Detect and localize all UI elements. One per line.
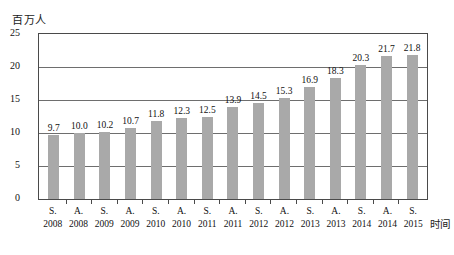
y-axis-tick-label: 20 xyxy=(0,61,20,71)
x-axis-season-label: S. xyxy=(297,205,323,218)
bar-value-label: 18.3 xyxy=(327,66,344,77)
bar: 18.3 xyxy=(330,78,341,199)
bar: 9.7 xyxy=(48,135,59,199)
x-axis-year-label: 2009 xyxy=(117,218,143,231)
y-axis-tick-label: 25 xyxy=(0,28,20,38)
x-axis-tick-mark xyxy=(322,200,323,204)
x-axis-season-label: A. xyxy=(66,205,92,218)
x-axis-category-label: S.2008 xyxy=(40,205,66,231)
x-axis-tick-mark xyxy=(398,200,399,204)
bar: 10.2 xyxy=(99,132,110,199)
x-axis-season-label: S. xyxy=(91,205,117,218)
bar: 12.5 xyxy=(202,117,213,200)
x-axis-title: 时间 xyxy=(430,219,450,231)
x-axis-tick-mark xyxy=(245,200,246,204)
bar-slot: 12.5 xyxy=(195,34,221,199)
bar: 21.7 xyxy=(381,56,392,199)
bar-value-label: 12.5 xyxy=(199,105,216,116)
bar-value-label: 13.9 xyxy=(225,95,242,106)
bar-slot: 10.7 xyxy=(118,34,144,199)
x-axis-category-label: A.2011 xyxy=(220,205,246,231)
bars-container: 9.710.010.210.711.812.312.513.914.515.31… xyxy=(39,34,427,199)
plot-area: 9.710.010.210.711.812.312.513.914.515.31… xyxy=(38,33,428,200)
bar-slot: 15.3 xyxy=(271,34,297,199)
x-axis-category-label: S.2013 xyxy=(297,205,323,231)
x-axis-season-label: S. xyxy=(143,205,169,218)
bar: 11.8 xyxy=(151,121,162,199)
x-axis-tick-mark xyxy=(373,200,374,204)
bar: 10.0 xyxy=(74,133,85,199)
x-axis-season-label: S. xyxy=(40,205,66,218)
x-axis-category-label: S.2014 xyxy=(349,205,375,231)
x-axis-category-label: A.2009 xyxy=(117,205,143,231)
bar: 14.5 xyxy=(253,103,264,199)
bar-value-label: 10.2 xyxy=(97,120,114,131)
bar-value-label: 11.8 xyxy=(148,109,164,120)
bar-slot: 14.5 xyxy=(246,34,272,199)
x-axis-season-label: S. xyxy=(194,205,220,218)
y-axis-tick-label: 15 xyxy=(0,94,20,104)
x-axis-category-label: S.2010 xyxy=(143,205,169,231)
x-axis-season-label: S. xyxy=(246,205,272,218)
bar: 20.3 xyxy=(355,65,366,199)
y-axis-tick-label: 0 xyxy=(0,193,20,203)
x-axis-tick-labels: S.2008A.2008S.2009A.2009S.2010A.2010S.20… xyxy=(38,205,428,231)
x-axis-tick-mark xyxy=(347,200,348,204)
x-axis-tick-mark xyxy=(270,200,271,204)
x-axis-season-label: A. xyxy=(323,205,349,218)
x-axis-category-label: A.2013 xyxy=(323,205,349,231)
x-axis-category-label: A.2010 xyxy=(169,205,195,231)
bar-slot: 16.9 xyxy=(297,34,323,199)
x-axis-tick-mark xyxy=(117,200,118,204)
x-axis-category-label: A.2014 xyxy=(375,205,401,231)
x-axis-tick-mark xyxy=(296,200,297,204)
bar-slot: 12.3 xyxy=(169,34,195,199)
y-axis-title: 百万人 xyxy=(12,14,47,27)
bar-value-label: 9.7 xyxy=(48,123,60,134)
bar-slot: 11.8 xyxy=(143,34,169,199)
x-axis-season-label: A. xyxy=(117,205,143,218)
bar-value-label: 10.7 xyxy=(122,116,139,127)
x-axis-season-label: A. xyxy=(375,205,401,218)
bar-value-label: 15.3 xyxy=(276,86,293,97)
bar: 16.9 xyxy=(304,87,315,199)
bar-slot: 21.8 xyxy=(399,34,425,199)
bar-slot: 13.9 xyxy=(220,34,246,199)
x-axis-category-label: A.2008 xyxy=(66,205,92,231)
bar-chart: 百万人 0510152025 9.710.010.210.711.812.312… xyxy=(0,0,454,255)
x-axis-year-label: 2011 xyxy=(194,218,220,231)
x-axis-year-label: 2015 xyxy=(400,218,426,231)
bar: 12.3 xyxy=(176,118,187,199)
x-axis-category-label: S.2011 xyxy=(194,205,220,231)
x-axis-year-label: 2008 xyxy=(40,218,66,231)
x-axis-season-label: S. xyxy=(349,205,375,218)
x-axis-year-label: 2009 xyxy=(91,218,117,231)
x-axis-season-label: A. xyxy=(169,205,195,218)
bar: 13.9 xyxy=(227,107,238,199)
x-axis-year-label: 2010 xyxy=(169,218,195,231)
bar-value-label: 16.9 xyxy=(301,75,318,86)
bar-slot: 10.0 xyxy=(67,34,93,199)
bar-slot: 10.2 xyxy=(92,34,118,199)
x-axis-tick-mark xyxy=(168,200,169,204)
x-axis-year-label: 2012 xyxy=(272,218,298,231)
x-axis-tick-mark xyxy=(219,200,220,204)
bar: 10.7 xyxy=(125,128,136,199)
x-axis-tick-marks xyxy=(38,200,428,204)
bar-value-label: 21.8 xyxy=(404,43,421,54)
bar-value-label: 21.7 xyxy=(378,44,395,55)
x-axis-year-label: 2012 xyxy=(246,218,272,231)
x-axis-category-label: S.2012 xyxy=(246,205,272,231)
x-axis-year-label: 2014 xyxy=(349,218,375,231)
x-axis-tick-mark xyxy=(142,200,143,204)
x-axis-year-label: 2013 xyxy=(297,218,323,231)
bar: 15.3 xyxy=(279,98,290,199)
x-axis-season-label: A. xyxy=(220,205,246,218)
bar-value-label: 12.3 xyxy=(173,106,190,117)
x-axis-category-label: S.2015 xyxy=(400,205,426,231)
bar-value-label: 10.0 xyxy=(71,121,88,132)
x-axis-tick-mark xyxy=(66,200,67,204)
bar: 21.8 xyxy=(407,55,418,199)
bar-slot: 20.3 xyxy=(348,34,374,199)
bar-value-label: 20.3 xyxy=(353,53,370,64)
